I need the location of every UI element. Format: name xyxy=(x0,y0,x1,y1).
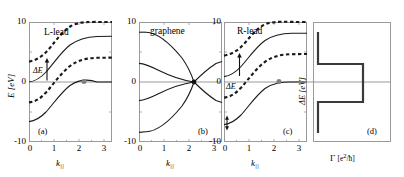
panel-a-tag: (a) xyxy=(38,126,47,136)
panel-a-x-axis-label: k|| xyxy=(56,158,64,170)
panel-b-xtick-2: 2 xyxy=(183,143,195,153)
panel-c-xtick-2: 2 xyxy=(268,143,280,153)
panel-b-tag: (b) xyxy=(198,126,208,136)
panel-a-solid-lower-band xyxy=(29,80,112,122)
panel-b-conduction-outer-left xyxy=(146,32,194,82)
panel-a-xtick-0: 0 xyxy=(24,143,36,153)
panel-c-xtick-0: 0 xyxy=(219,143,231,153)
panel-b-x-axis-label-sub: || xyxy=(170,162,174,170)
panel-d-plot-area xyxy=(313,22,391,142)
panel-c-delta-e-arrow xyxy=(237,53,242,76)
panel-b-valence-far-left xyxy=(139,132,146,133)
panel-a-solid-upper-band xyxy=(29,36,112,82)
panel-b-xtick-0: 0 xyxy=(134,143,146,153)
panel-a-ytick-mid: 0 xyxy=(2,76,26,86)
panel-b-ytick-bottom: -10 xyxy=(110,136,136,146)
panel-a-xtick-3: 3 xyxy=(98,143,110,153)
panel-d-y-axis-label: ΔE [eV] xyxy=(297,77,307,105)
panel-c-xtick-3: 3 xyxy=(293,143,305,153)
panel-d-x-axis-label-gamma: Γ xyxy=(330,153,335,163)
panel-b-valence-outer-left xyxy=(146,82,194,132)
panel-c-dashed-lower-band xyxy=(224,54,307,98)
panel-b-conduction-inner xyxy=(139,63,194,82)
panel-c-tag: (c) xyxy=(283,126,292,136)
panel-b-valence-inner xyxy=(139,82,194,101)
panel-a-delta-e-label: ΔE xyxy=(33,66,43,75)
panel-c-xtick-1: 1 xyxy=(243,143,255,153)
panel-a-xtick-1: 1 xyxy=(48,143,60,153)
panel-c-ytick-top: 10 xyxy=(197,16,221,26)
panel-a-ytick-bottom: -10 xyxy=(0,136,26,146)
panel-a-fermi-point-marker xyxy=(82,79,87,84)
panel-c-x-axis-label: k|| xyxy=(251,158,259,170)
panel-d-tag: (d) xyxy=(367,126,377,136)
panel-d-x-axis-label: Γ [e2/ħ] xyxy=(330,152,355,163)
panel-c-solid-lower-band xyxy=(224,82,307,125)
panel-a-dashed-upper-band xyxy=(29,22,112,62)
panel-c-ytick-bottom: -10 xyxy=(195,136,221,146)
panel-b-title: graphene xyxy=(150,26,185,36)
panel-c-delta-e-label: ΔE xyxy=(226,82,236,91)
panel-c-band-offset-arrow xyxy=(225,116,229,131)
panel-b-dirac-point-marker xyxy=(192,80,197,85)
panel-c-title: R-lead xyxy=(237,26,262,36)
panel-a-plot-area xyxy=(29,22,112,142)
panel-a-title: L-lead xyxy=(44,27,69,37)
panel-c-plot-area xyxy=(224,22,307,142)
panel-b-ytick-top: 10 xyxy=(112,16,136,26)
panel-c-ytick-mid: 0 xyxy=(197,76,221,86)
panel-c-x-axis-label-sub: || xyxy=(255,162,259,170)
panel-a-dashed-lower-band xyxy=(29,58,112,103)
panel-b-xtick-1: 1 xyxy=(158,143,170,153)
panel-d-x-axis-units-post: /ħ] xyxy=(347,154,355,163)
figure-canvas: E [eV] 10 0 -10 xyxy=(0,0,404,177)
panel-b-ytick-mid: 0 xyxy=(112,76,136,86)
panel-a-ytick-top: 10 xyxy=(2,16,26,26)
panel-c-fermi-point-marker xyxy=(277,79,282,84)
panel-a-x-axis-label-sub: || xyxy=(60,162,64,170)
panel-b-x-axis-label: k|| xyxy=(166,158,174,170)
panel-a-xtick-2: 2 xyxy=(73,143,85,153)
